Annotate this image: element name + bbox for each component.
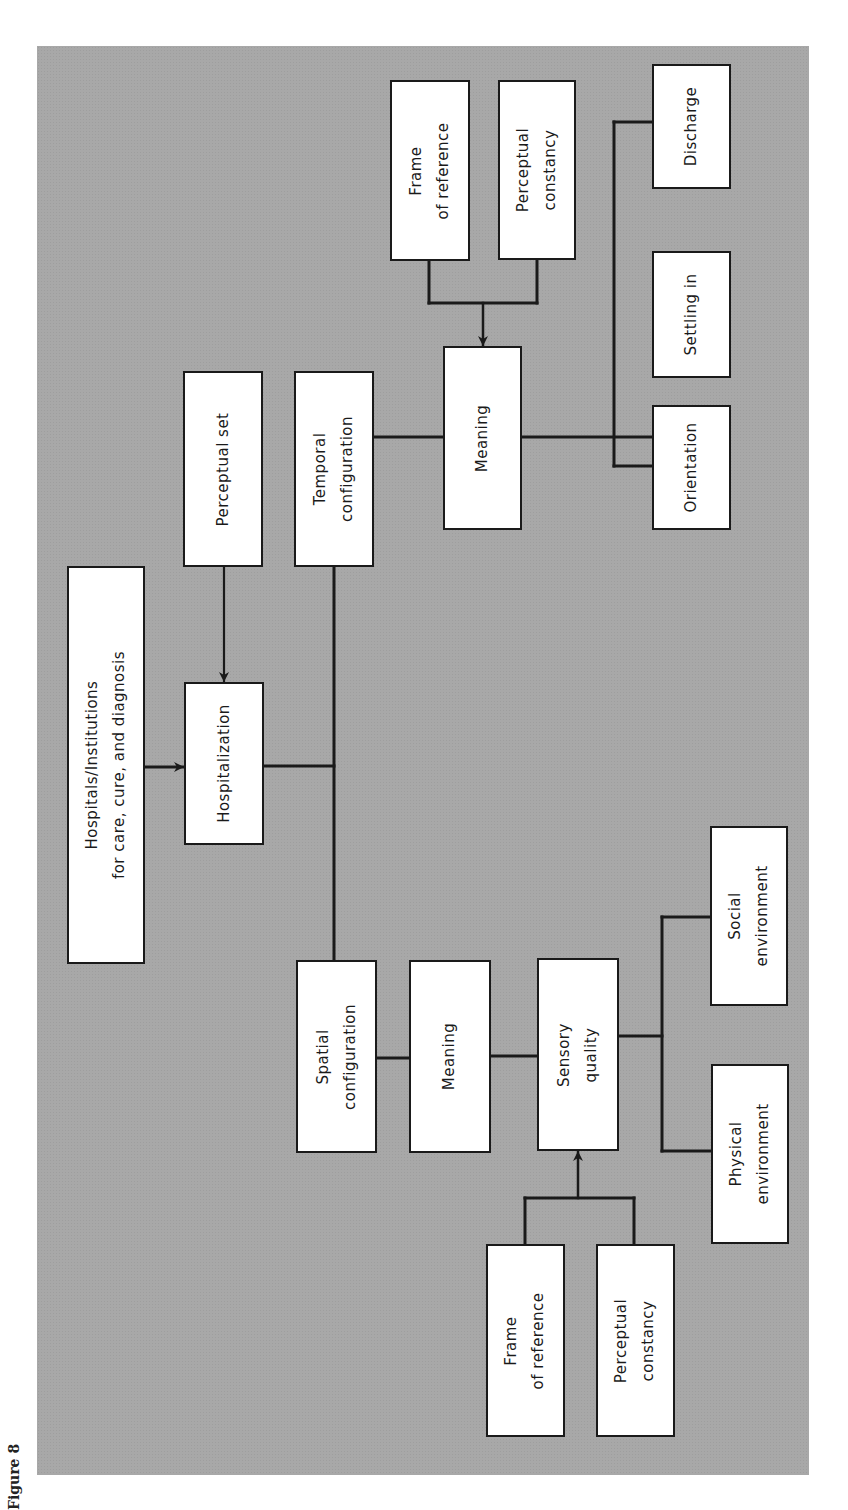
spatial-configuration-box: Spatial configuration	[296, 960, 377, 1153]
discharge-box: Discharge	[652, 64, 731, 189]
sensory-quality-label: Sensory quality	[551, 1023, 605, 1087]
perceptual-set-box: Perceptual set	[183, 371, 263, 567]
frame-of-reference-top-label: Frame of reference	[403, 122, 457, 219]
perceptual-constancy-top-box: Perceptual constancy	[498, 80, 576, 260]
physical-environment-box: Physical environment	[711, 1064, 789, 1244]
orientation-label: Orientation	[678, 422, 705, 512]
physical-environment-label: Physical environment	[723, 1103, 777, 1204]
social-environment-box: Social environment	[710, 826, 788, 1006]
spatial-configuration-label: Spatial configuration	[310, 1004, 364, 1110]
hospitalization-label: Hospitalization	[211, 704, 238, 823]
perceptual-set-label: Perceptual set	[210, 412, 237, 526]
temporal-configuration-label: Temporal configuration	[307, 416, 361, 522]
perceptual-constancy-bottom-box: Perceptual constancy	[596, 1244, 675, 1437]
orientation-box: Orientation	[652, 405, 731, 530]
discharge-label: Discharge	[678, 87, 705, 167]
perceptual-constancy-top-label: Perceptual constancy	[510, 128, 564, 212]
meaning-temporal-label: Meaning	[469, 404, 496, 472]
sensory-quality-box: Sensory quality	[537, 958, 619, 1151]
temporal-configuration-box: Temporal configuration	[294, 371, 374, 567]
frame-of-reference-top-box: Frame of reference	[390, 80, 470, 261]
perceptual-constancy-bottom-label: Perceptual constancy	[609, 1298, 663, 1382]
frame-of-reference-bottom-label: Frame of reference	[499, 1292, 553, 1389]
hospitals-institutions-label: Hospitals/Institutions for care, cure, a…	[79, 651, 133, 879]
figure-caption: Figure 8	[6, 1450, 26, 1510]
hospitals-institutions-box: Hospitals/Institutions for care, cure, a…	[67, 566, 145, 964]
settling-in-label: Settling in	[678, 274, 705, 356]
frame-of-reference-bottom-box: Frame of reference	[486, 1244, 565, 1437]
hospitalization-box: Hospitalization	[184, 682, 264, 845]
meaning-temporal-box: Meaning	[443, 346, 522, 530]
social-environment-label: Social environment	[722, 865, 776, 966]
settling-in-box: Settling in	[652, 251, 731, 378]
meaning-spatial-label: Meaning	[436, 1023, 463, 1091]
meaning-spatial-box: Meaning	[409, 960, 491, 1153]
